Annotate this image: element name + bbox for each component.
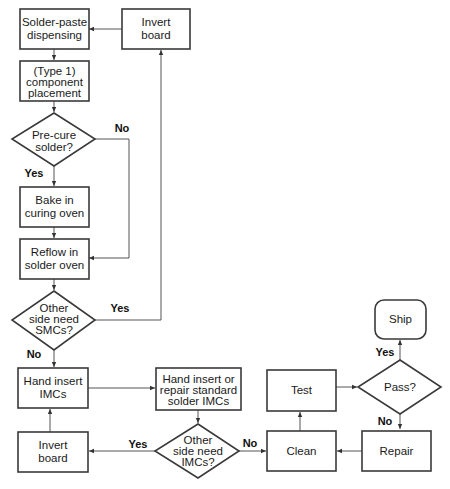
node-label: Ship bbox=[389, 313, 412, 325]
node-label: IMCs? bbox=[181, 456, 214, 468]
node-label: Pass? bbox=[384, 381, 416, 393]
node-hand-insert-imcs: Hand insert IMCs bbox=[18, 368, 88, 408]
node-reflow: Reflow in solder oven bbox=[20, 239, 89, 279]
node-label: board bbox=[38, 452, 67, 464]
label-imc-yes: Yes bbox=[129, 438, 148, 450]
node-label: dispensing bbox=[27, 29, 82, 41]
flowchart: Solder-paste dispensing Invert board (Ty… bbox=[0, 0, 450, 489]
node-label: placement bbox=[28, 87, 82, 99]
node-pass-decision: Pass? bbox=[358, 360, 441, 414]
node-invert-board-top: Invert board bbox=[122, 9, 190, 49]
node-label: Hand insert bbox=[24, 375, 84, 387]
label-precure-no: No bbox=[115, 122, 130, 134]
label-pass-yes: Yes bbox=[376, 346, 395, 358]
node-label: Invert bbox=[142, 16, 172, 28]
node-label: solder oven bbox=[25, 259, 84, 271]
node-label: Solder-paste bbox=[22, 16, 87, 28]
node-label: IMCs bbox=[40, 388, 67, 400]
node-clean: Clean bbox=[267, 431, 336, 471]
node-other-side-smcs-decision: Other side need SMCs? bbox=[12, 291, 95, 350]
node-label: solder IMCs bbox=[168, 395, 230, 407]
label-smc-no: No bbox=[27, 348, 42, 360]
label-imc-no: No bbox=[243, 437, 258, 449]
node-label: Invert bbox=[39, 439, 69, 451]
node-ship: Ship bbox=[375, 300, 426, 339]
node-repair: Repair bbox=[362, 431, 431, 471]
node-label: Clean bbox=[286, 445, 316, 457]
node-invert-board-bottom: Invert board bbox=[18, 432, 88, 472]
node-label: Bake in bbox=[35, 194, 73, 206]
node-label: SMCs? bbox=[35, 324, 73, 336]
node-label: Pre-cure bbox=[32, 129, 76, 141]
node-label: Repair bbox=[380, 445, 414, 457]
edge-smc-yes bbox=[95, 50, 161, 320]
label-precure-yes: Yes bbox=[25, 167, 44, 179]
node-precure-decision: Pre-cure solder? bbox=[12, 113, 95, 166]
node-hand-insert-or-repair: Hand insert or repair standard solder IM… bbox=[156, 368, 241, 410]
edge-precure-no bbox=[89, 139, 129, 258]
node-solder-paste: Solder-paste dispensing bbox=[20, 9, 89, 49]
node-component-placement: (Type 1) component placement bbox=[20, 61, 89, 101]
node-label: Test bbox=[291, 384, 313, 396]
node-label: curing oven bbox=[25, 207, 84, 219]
node-label: board bbox=[141, 29, 170, 41]
label-pass-no: No bbox=[378, 415, 393, 427]
node-other-side-imcs-decision: Other side need IMCs? bbox=[155, 424, 239, 478]
node-label: solder? bbox=[35, 141, 73, 153]
node-label: Reflow in bbox=[31, 246, 78, 258]
node-test: Test bbox=[267, 370, 336, 411]
node-bake: Bake in curing oven bbox=[20, 187, 89, 227]
label-smc-yes: Yes bbox=[111, 302, 130, 314]
